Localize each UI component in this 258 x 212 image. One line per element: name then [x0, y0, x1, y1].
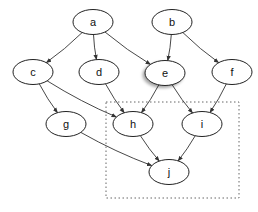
node-d[interactable]: d — [79, 60, 119, 85]
node-j[interactable]: j — [149, 160, 189, 185]
edge-a-d — [94, 35, 97, 60]
node-a-label: a — [90, 16, 97, 28]
node-g-label: g — [63, 118, 69, 130]
edge-d-h — [106, 84, 125, 113]
edge-e-i — [172, 85, 193, 113]
node-c-label: c — [30, 66, 36, 78]
edge-e-h — [141, 85, 158, 113]
edge-h-j — [140, 136, 159, 162]
node-h[interactable]: h — [113, 112, 153, 137]
node-b-label: b — [169, 16, 175, 28]
graph-canvas: abcdefghij — [0, 0, 258, 212]
node-e[interactable]: e — [145, 61, 185, 86]
node-a[interactable]: a — [73, 10, 113, 35]
node-j-label: j — [167, 166, 170, 178]
edge-b-e — [168, 35, 172, 61]
edge-c-g — [39, 84, 57, 113]
edge-a-c — [46, 33, 82, 63]
node-c[interactable]: c — [13, 60, 53, 85]
node-g[interactable]: g — [46, 112, 86, 137]
node-f[interactable]: f — [212, 60, 252, 85]
edge-i-j — [178, 136, 195, 161]
node-b[interactable]: b — [152, 10, 192, 35]
node-h-label: h — [130, 118, 136, 130]
node-e-label: e — [162, 67, 168, 79]
edges-layer — [39, 32, 226, 166]
edge-b-f — [183, 33, 219, 63]
edge-f-i — [210, 84, 226, 113]
edge-a-e — [105, 32, 151, 64]
node-d-label: d — [96, 66, 102, 78]
node-i[interactable]: i — [182, 112, 222, 137]
node-i-label: i — [201, 118, 203, 130]
